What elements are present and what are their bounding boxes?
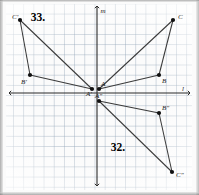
vertex-point-TriangleABCreflectionoverl-2 [170,170,174,174]
vertex-label: B [162,77,167,85]
triangle-0-side-0 [99,75,159,89]
vertex-label: A [100,80,106,88]
triangle-2-side-0 [99,101,159,113]
vertex-label: B' [21,78,27,86]
problem-number-label: 33. [31,11,45,23]
vertex-label: A' [85,90,92,98]
vertex-label: C″ [176,171,184,179]
scan-border-top [0,0,199,2]
figure-canvas: ABCA'B'C'A″B″C″ ml 33.32. [0,0,199,195]
vertex-point-TriangleABC-1 [157,73,161,77]
axis-label-l: l [182,85,184,93]
triangle-2-side-1 [159,113,172,172]
vertex-point-TriangleABC-2 [171,18,175,22]
scan-border-right [196,0,199,195]
vertex-label: B″ [162,104,169,112]
reflection-diagram: ABCA'B'C'A″B″C″ ml [0,0,199,195]
vertex-label: C' [12,13,19,21]
point-labels-group: ABCA'B'C'A″B″C″ [12,13,184,179]
axis-label-m: m [101,7,106,15]
scan-border-bottom [0,192,199,195]
vertex-label: C [178,13,183,21]
vertex-point-TriangleABCreflectionoverm-2 [18,18,22,22]
scan-border-left [0,0,3,195]
triangle-0-side-1 [159,20,173,75]
triangle-1-side-0 [30,75,92,89]
vertex-label: A″ [94,92,102,100]
vertex-point-TriangleABCreflectionoverl-1 [157,111,161,115]
triangle-1-side-2 [20,20,92,89]
vertex-point-TriangleABCreflectionoverm-1 [28,73,32,77]
problem-number-label: 32. [111,141,125,153]
